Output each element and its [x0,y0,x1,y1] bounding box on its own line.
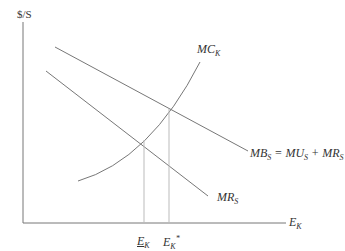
mr-curve [46,71,208,196]
mc-curve [78,62,200,181]
mb-curve [55,47,248,151]
y-axis-label: $/S [17,8,32,20]
mb-label: MBS = MUS + MRS [250,146,344,162]
diagram-canvas [0,0,345,251]
ek-star-marker-label: EK* [163,234,180,251]
mc-label: MCK [197,42,220,58]
ek-marker-label: EK [137,234,150,250]
x-axis-label: EK [289,215,302,231]
mr-label: MRS [217,190,238,206]
